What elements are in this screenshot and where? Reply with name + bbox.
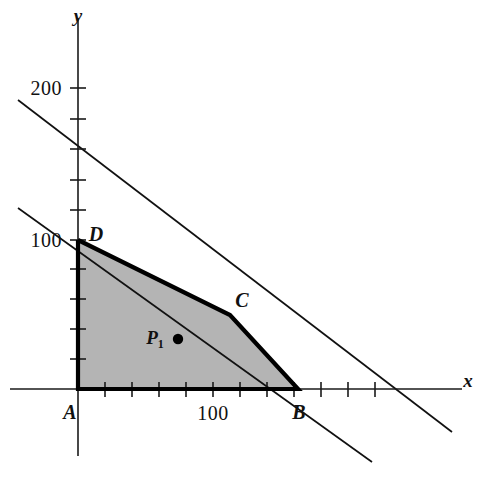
interior-point-label: P1 — [146, 328, 164, 351]
interior-point-letter: P — [146, 327, 158, 348]
interior-point-marker — [173, 334, 183, 344]
interior-point-subscript: 1 — [158, 337, 164, 351]
figure-canvas: y x 200 100 100 A B C D P1 — [0, 0, 484, 486]
y-tick-label-200: 200 — [31, 78, 63, 98]
y-axis-label: y — [74, 6, 82, 25]
vertex-label-a: A — [63, 402, 76, 422]
y-tick-label-100: 100 — [31, 230, 63, 250]
x-tick-label-100: 100 — [197, 403, 229, 423]
vertex-label-b: B — [292, 402, 305, 422]
feasible-region-fill — [78, 240, 298, 389]
vertex-label-d: D — [89, 224, 103, 244]
vertex-label-c: C — [235, 290, 248, 310]
constraint-line-2 — [18, 208, 372, 462]
x-axis-label: x — [463, 371, 473, 390]
